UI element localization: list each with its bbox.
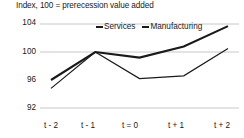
chart-figure: Index, 100 = prerecession value added 10…: [0, 0, 244, 138]
x-axis-tick-t-zero: t = 0: [122, 121, 138, 130]
x-axis-tick-t-minus-1: t - 1: [81, 121, 95, 130]
x-axis-tick-t-plus-1: t + 1: [168, 121, 184, 130]
x-axis-tick-t-minus-2: t - 2: [44, 121, 58, 130]
x-axis-tick-t-plus-2: t + 2: [214, 121, 230, 130]
x-axis-tick-labels: t - 2 t - 1 t = 0 t + 1 t + 2: [0, 0, 244, 138]
